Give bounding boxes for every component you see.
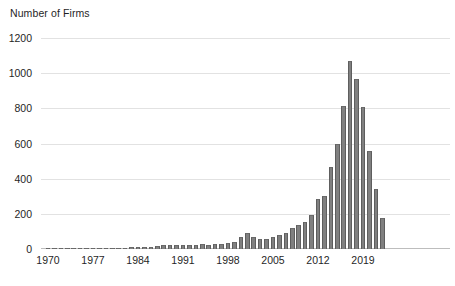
bar [316,199,321,249]
gridline [41,214,450,215]
chart-container: Number of Firms 020040060080010001200 19… [0,0,455,286]
bar [251,237,256,249]
bar [226,243,231,249]
bar [71,248,76,249]
bar [277,235,282,249]
y-axis-tick-label: 0 [0,243,32,255]
x-axis-tick-label: 2012 [306,254,329,266]
bar [46,248,51,249]
bar [136,247,141,249]
bar [161,245,166,249]
bar [91,248,96,249]
bar [194,245,199,249]
bar [149,247,154,249]
bar [290,228,295,249]
gridline [41,108,450,109]
bar [322,196,327,249]
bar [129,247,134,249]
bar [335,144,340,250]
x-axis-tick-label: 1991 [171,254,194,266]
y-axis-tick-label: 800 [0,102,32,114]
bar [110,248,115,249]
bar [84,248,89,249]
bar [232,242,237,249]
bar [239,237,244,249]
chart-title: Number of Firms [10,7,90,19]
bar [309,215,314,249]
bar [78,248,83,249]
bar [174,245,179,249]
bar [245,233,250,249]
bar [296,225,301,249]
bar [142,247,147,249]
gridline [41,144,450,145]
x-axis-tick-label: 2005 [261,254,284,266]
x-axis-tick-label: 2019 [351,254,374,266]
bar [258,239,263,249]
bar [97,248,102,249]
bar [264,239,269,249]
bar [329,167,334,249]
bar [303,222,308,249]
bar [348,61,353,249]
bar [380,218,385,249]
bar [284,233,289,249]
bar [116,248,121,249]
bar [181,245,186,249]
gridline [41,73,450,74]
bar [187,245,192,249]
bar [104,248,109,249]
bar [59,248,64,249]
bar [219,244,224,249]
bar [361,107,366,249]
bar [168,245,173,249]
bar [341,106,346,249]
y-axis-tick-label: 600 [0,138,32,150]
bar [271,237,276,249]
bar [52,248,57,249]
bar [155,246,160,249]
x-axis-tick-label: 1970 [36,254,59,266]
bar [200,244,205,249]
bar [206,245,211,249]
bar [354,79,359,249]
x-axis-tick-label: 1998 [216,254,239,266]
y-axis-tick-label: 200 [0,208,32,220]
bar [374,189,379,249]
y-axis-tick-label: 400 [0,173,32,185]
y-axis-tick-label: 1200 [0,32,32,44]
gridline [41,38,450,39]
y-axis-tick-label: 1000 [0,67,32,79]
bar [65,248,70,249]
bar [367,151,372,249]
bar [213,244,218,249]
bar [123,248,128,249]
plot-area [41,38,450,249]
x-axis-labels: 19701977198419911998200520122019 [41,254,450,274]
x-axis-tick-label: 1977 [81,254,104,266]
x-axis-tick-label: 1984 [126,254,149,266]
gridline [41,179,450,180]
